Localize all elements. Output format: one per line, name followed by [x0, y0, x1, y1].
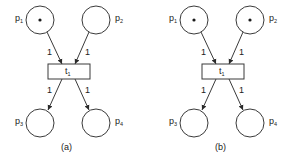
arc-weight: 1	[47, 47, 52, 57]
petri-net-a: 1 1 1 1 p1 p2 p3 p4 t1 (a)	[15, 6, 123, 152]
arc-weight: 1	[85, 85, 90, 95]
place-label-p4: p4	[269, 116, 277, 127]
place-p2	[82, 6, 110, 34]
place-p4	[82, 109, 110, 137]
petri-net-b: 1 1 1 1 p1 p2 p3 p4 t1 (b)	[169, 6, 277, 152]
arc-weight: 1	[85, 47, 90, 57]
token	[248, 18, 251, 21]
place-label-p4: p4	[115, 116, 123, 127]
place-label-p2: p2	[269, 13, 277, 24]
place-label-p2: p2	[115, 13, 123, 24]
petri-net-figure: 1 1 1 1 p1 p2 p3 p4 t1 (a) 1 1 1 1	[0, 0, 292, 156]
token	[38, 18, 41, 21]
arc-weight: 1	[201, 47, 206, 57]
place-label-p3: p3	[15, 116, 23, 127]
place-label-p1: p1	[15, 13, 23, 24]
caption-b: (b)	[215, 142, 226, 152]
place-p3	[26, 109, 54, 137]
caption-a: (a)	[61, 142, 72, 152]
place-label-p3: p3	[169, 116, 177, 127]
place-p3	[180, 109, 208, 137]
place-p4	[236, 109, 264, 137]
arc-weight: 1	[47, 85, 52, 95]
arc-weight: 1	[201, 85, 206, 95]
token	[192, 18, 195, 21]
place-label-p1: p1	[169, 13, 177, 24]
arc-weight: 1	[239, 47, 244, 57]
arc-weight: 1	[239, 85, 244, 95]
